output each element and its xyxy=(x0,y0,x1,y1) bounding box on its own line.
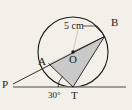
radius-dimension-label: 5 cm xyxy=(64,21,84,31)
angle-label-30-degrees: 30° xyxy=(48,91,61,100)
center-leader-line xyxy=(73,30,78,52)
point-label-b: B xyxy=(111,17,118,28)
point-label-a: A xyxy=(38,56,46,67)
point-label-o: O xyxy=(69,54,77,65)
point-label-p: P xyxy=(2,79,8,90)
dimension-leader-line xyxy=(95,26,104,35)
geometry-figure: 5 cm B O A P T 30° xyxy=(0,0,132,110)
point-label-t: T xyxy=(71,90,78,101)
